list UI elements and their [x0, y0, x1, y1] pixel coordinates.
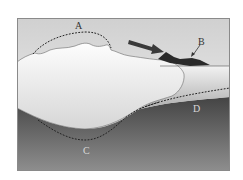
label-a: A	[75, 20, 83, 31]
label-d: D	[193, 103, 200, 114]
label-c: C	[83, 145, 90, 156]
label-b: B	[198, 36, 205, 47]
glacier-diagram: A B C D	[0, 0, 243, 180]
